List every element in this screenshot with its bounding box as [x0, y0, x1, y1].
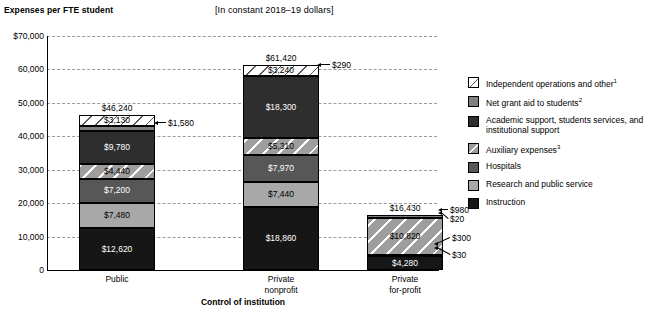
- legend-item[interactable]: Net grant aid to students2: [468, 95, 646, 108]
- bar-segment[interactable]: $4,440: [79, 164, 155, 179]
- x-category-label: Privatefor-profit: [389, 274, 421, 296]
- bar-segment[interactable]: $12,620: [79, 228, 155, 270]
- y-axis-tick-label: 0: [39, 265, 44, 275]
- legend-swatch-icon: [468, 198, 479, 209]
- units-note: [In constant 2018–19 dollars]: [215, 5, 333, 15]
- segment-value-label: $18,300: [266, 103, 297, 112]
- legend-footnote-marker: 1: [614, 78, 617, 84]
- callout-leader-line: [441, 209, 448, 210]
- legend-item[interactable]: Instruction: [468, 197, 646, 209]
- legend-swatch-icon: [468, 77, 479, 88]
- bar-segment[interactable]: $7,440: [243, 182, 319, 207]
- x-category-line: Private: [264, 274, 297, 285]
- legend-item[interactable]: Auxiliary expenses3: [468, 142, 646, 155]
- bar-total-label: $16,430: [390, 203, 421, 213]
- segment-value-label: $5,310: [268, 142, 294, 151]
- segment-value-label: $10,820: [390, 232, 421, 241]
- x-category-line: nonprofit: [264, 285, 297, 296]
- segment-value-label: $9,780: [104, 143, 130, 152]
- callout-leader-line: [157, 122, 166, 123]
- segment-value-label: $3,130: [104, 116, 130, 125]
- segment-value-label: $18,860: [266, 234, 297, 243]
- x-axis-line: [47, 270, 439, 271]
- callout-label: $300: [452, 233, 471, 243]
- segment-value-label: $12,620: [102, 245, 133, 254]
- bar-private-forprofit[interactable]: $10,820$4,280: [367, 215, 443, 270]
- y-axis-tick-label: 10,000: [18, 232, 44, 242]
- segment-value-label: $3,240: [268, 66, 294, 75]
- bar-segment[interactable]: $5,310: [243, 138, 319, 156]
- segment-value-label: $4,440: [104, 167, 130, 176]
- segment-value-label: $7,200: [104, 186, 130, 195]
- legend: Independent operations and other1Net gra…: [468, 76, 646, 215]
- y-axis-line: [47, 36, 48, 271]
- bar-segment[interactable]: $4,280: [367, 256, 443, 270]
- x-category-line: Private: [389, 274, 421, 285]
- legend-label: Independent operations and other1: [486, 76, 617, 89]
- callout-leader-line: [320, 64, 330, 65]
- chart-root: Expenses per FTE student [In constant 20…: [0, 0, 646, 318]
- bar-private-nonprofit[interactable]: $3,240$18,300$5,310$7,970$7,440$18,860: [243, 65, 319, 270]
- callout-arrow-icon: [154, 121, 158, 125]
- bar-segment[interactable]: $7,970: [243, 155, 319, 182]
- legend-swatch-icon: [468, 96, 479, 107]
- legend-label: Hospitals: [486, 161, 521, 172]
- segment-value-label: $7,440: [268, 190, 294, 199]
- x-category-line: Public: [105, 274, 128, 285]
- legend-item[interactable]: Hospitals: [468, 161, 646, 173]
- bar-total-label: $61,420: [266, 53, 297, 63]
- gridline: [47, 36, 437, 37]
- legend-swatch-icon: [468, 116, 479, 127]
- legend-item[interactable]: Research and public service: [468, 179, 646, 191]
- bar-segment[interactable]: $3,240: [243, 65, 319, 76]
- callout-label: $290: [332, 60, 351, 70]
- x-category-label: Privatenonprofit: [264, 274, 297, 296]
- y-axis-tick-label: 40,000: [18, 131, 44, 141]
- legend-swatch-icon: [468, 162, 479, 173]
- legend-item[interactable]: Independent operations and other1: [468, 76, 646, 89]
- bar-segment[interactable]: $9,780: [79, 131, 155, 164]
- bar-segment[interactable]: $7,480: [79, 203, 155, 228]
- segment-value-label: $7,480: [104, 211, 130, 220]
- bar-segment[interactable]: $18,300: [243, 76, 319, 137]
- legend-label: Academic support, students services, and…: [486, 115, 646, 136]
- y-axis-tick-label: 50,000: [18, 98, 44, 108]
- bar-segment[interactable]: $7,200: [79, 179, 155, 203]
- legend-swatch-icon: [468, 180, 479, 191]
- y-axis-tick-label: $70,000: [13, 31, 44, 41]
- bar-segment[interactable]: $10,820: [367, 218, 443, 254]
- y-axis-tick-label: 30,000: [18, 165, 44, 175]
- legend-footnote-marker: 2: [579, 97, 582, 103]
- callout-label: $1,580: [168, 118, 194, 128]
- callout-label: $30: [452, 250, 466, 260]
- bar-segment[interactable]: $3,130: [79, 115, 155, 125]
- legend-label: Research and public service: [486, 179, 593, 190]
- x-axis-title: Control of institution: [201, 297, 285, 307]
- gridline: [47, 69, 437, 70]
- bar-public[interactable]: $3,130$9,780$4,440$7,200$7,480$12,620: [79, 115, 155, 270]
- segment-value-label: $4,280: [392, 259, 418, 268]
- legend-swatch-icon: [468, 143, 479, 154]
- callout-arrow-icon: [434, 246, 438, 250]
- x-category-line: for-profit: [389, 285, 421, 296]
- x-category-label: Public: [105, 274, 128, 285]
- callout-label: $20: [450, 214, 464, 224]
- legend-item[interactable]: Academic support, students services, and…: [468, 115, 646, 136]
- y-axis-tick-labels: $70,00060,00050,00040,00030,00020,00010,…: [0, 0, 44, 318]
- y-axis-tick-label: 20,000: [18, 198, 44, 208]
- bar-total-label: $46,240: [102, 103, 133, 113]
- callout-arrow-icon: [317, 63, 321, 67]
- legend-label: Instruction: [486, 197, 525, 208]
- callout-arrow-icon: [438, 211, 442, 215]
- legend-label: Auxiliary expenses3: [486, 142, 560, 155]
- legend-label: Net grant aid to students2: [486, 95, 582, 108]
- y-axis-tick-label: 60,000: [18, 64, 44, 74]
- segment-value-label: $7,970: [268, 164, 294, 173]
- legend-footnote-marker: 3: [557, 144, 560, 150]
- bar-segment[interactable]: $18,860: [243, 207, 319, 270]
